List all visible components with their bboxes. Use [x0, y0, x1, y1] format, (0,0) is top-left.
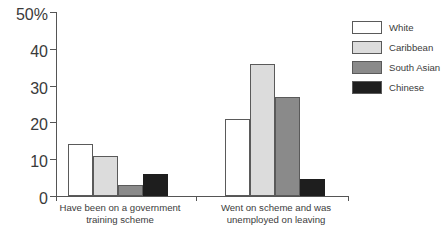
bar-group-1: [225, 12, 325, 196]
bar-south-asian-0: [118, 185, 143, 196]
legend-item-white: White: [352, 18, 446, 36]
category-label-1: Went on scheme and was unemployed on lea…: [204, 202, 348, 226]
plot-area: [56, 12, 348, 196]
x-sep-middle: [196, 196, 197, 201]
legend-swatch-south-asian: [352, 61, 382, 74]
bar-white-0: [68, 144, 93, 196]
y-tick-label-40: 40: [0, 43, 48, 61]
legend-label-south-asian: South Asian: [389, 62, 440, 73]
legend-item-chinese: Chinese: [352, 78, 446, 96]
legend-item-caribbean: Caribbean: [352, 38, 446, 56]
y-tick-label-10: 10: [0, 153, 48, 171]
bar-white-1: [225, 119, 250, 196]
legend-swatch-white: [352, 21, 382, 34]
x-sep-right: [348, 196, 349, 201]
bar-chinese-1: [300, 179, 325, 196]
y-tick-label-50: 50%: [0, 6, 48, 24]
legend-swatch-caribbean: [352, 41, 382, 54]
bar-chinese-0: [143, 174, 168, 196]
legend-item-south-asian: South Asian: [352, 58, 446, 76]
bar-chart: 50% 40 30 20 10 0 Have been on: [0, 0, 448, 245]
legend-label-caribbean: Caribbean: [389, 42, 433, 53]
y-tick-label-30: 30: [0, 80, 48, 98]
category-label-0: Have been on a government training schem…: [48, 202, 192, 226]
legend: White Caribbean South Asian Chinese: [352, 18, 446, 98]
legend-label-chinese: Chinese: [389, 82, 424, 93]
y-tick-label-20: 20: [0, 116, 48, 134]
legend-label-white: White: [389, 22, 414, 33]
bar-south-asian-1: [275, 97, 300, 196]
bar-caribbean-0: [93, 156, 118, 196]
bar-caribbean-1: [250, 64, 275, 196]
y-tick-label-0: 0: [0, 190, 48, 208]
x-sep-left: [56, 196, 57, 201]
x-axis-line: [56, 196, 349, 197]
legend-swatch-chinese: [352, 81, 382, 94]
bar-group-0: [68, 12, 168, 196]
